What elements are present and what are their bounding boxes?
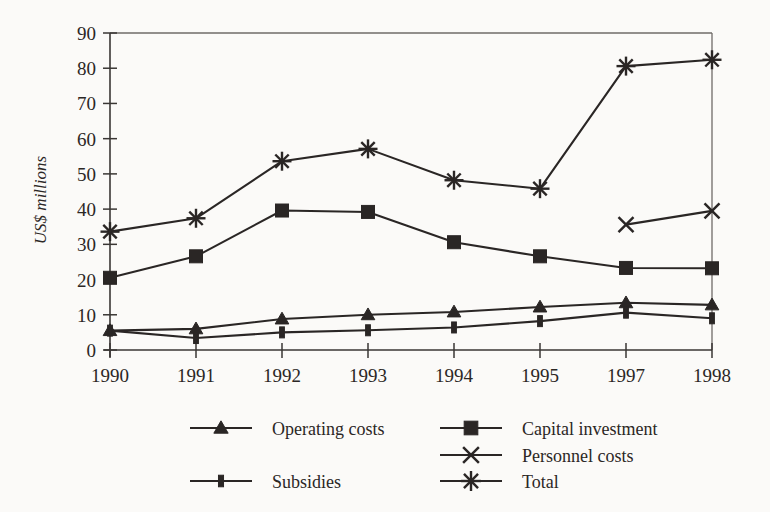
y-tick-label-80: 80 <box>77 58 96 79</box>
point-total-1991 <box>187 209 206 228</box>
legend-label-personnel-costs: Personnel costs <box>522 446 634 466</box>
x-tick-label-1990: 1990 <box>91 365 129 386</box>
point-capital-investment-1991 <box>190 250 203 263</box>
y-tick-label-40: 40 <box>77 199 96 220</box>
point-subsidies-1994 <box>452 322 457 333</box>
y-axis: 0102030405060708090 <box>77 23 117 361</box>
series-line-total <box>110 60 712 232</box>
point-total-1993 <box>359 139 378 158</box>
x-tick-label-1992: 1992 <box>263 365 301 386</box>
y-tick-label-60: 60 <box>77 129 96 150</box>
x-tick-label-1998: 1998 <box>693 365 731 386</box>
x-tick-label-1997: 1997 <box>607 365 645 386</box>
series-line-personnel-costs <box>626 211 712 225</box>
x-tick-label-1993: 1993 <box>349 365 387 386</box>
legend-label-total: Total <box>522 472 559 492</box>
point-total-1995 <box>531 179 550 198</box>
series-personnel-costs <box>619 203 720 232</box>
plot-frame <box>104 33 712 357</box>
line-chart-svg: 0102030405060708090 US$ millions 1990199… <box>0 0 770 512</box>
triangle-marker <box>214 421 228 433</box>
x-tick-label-1995: 1995 <box>521 365 559 386</box>
legend-label-operating-costs: Operating costs <box>272 419 384 439</box>
vbar-marker <box>218 475 223 487</box>
point-subsidies-1991 <box>194 333 199 344</box>
y-tick-label-50: 50 <box>77 164 96 185</box>
point-operating-costs-1997 <box>619 296 633 308</box>
point-subsidies-1990 <box>108 325 113 336</box>
series-layer <box>101 50 722 343</box>
point-capital-investment-1992 <box>276 204 289 217</box>
point-total-1990 <box>101 222 120 241</box>
asterisk-marker <box>461 471 481 491</box>
point-subsidies-1993 <box>366 325 371 336</box>
legend-item-capital-investment[interactable]: Capital investment <box>440 419 657 439</box>
x-tick-label-1994: 1994 <box>435 365 474 386</box>
chart-figure: 0102030405060708090 US$ millions 1990199… <box>0 0 770 512</box>
point-total-1997 <box>617 57 636 76</box>
y-tick-label-30: 30 <box>77 234 96 255</box>
x-tick-label-1991: 1991 <box>177 365 215 386</box>
y-tick-label-70: 70 <box>77 93 96 114</box>
point-total-1998 <box>703 50 722 69</box>
legend-label-subsidies: Subsidies <box>272 472 341 492</box>
point-capital-investment-1990 <box>104 271 117 284</box>
point-subsidies-1998 <box>710 313 715 324</box>
legend-item-subsidies[interactable]: Subsidies <box>190 472 341 492</box>
point-capital-investment-1995 <box>534 250 547 263</box>
legend-item-personnel-costs[interactable]: Personnel costs <box>440 446 634 466</box>
point-subsidies-1995 <box>538 316 543 327</box>
y-tick-label-0: 0 <box>87 340 97 361</box>
legend-item-total[interactable]: Total <box>440 471 559 492</box>
y-tick-label-20: 20 <box>77 270 96 291</box>
point-capital-investment-1994 <box>448 236 461 249</box>
y-tick-label-10: 10 <box>77 305 96 326</box>
y-axis-title: US$ millions <box>31 155 50 244</box>
point-total-1994 <box>445 171 464 190</box>
point-subsidies-1997 <box>624 307 629 318</box>
point-capital-investment-1998 <box>706 262 719 275</box>
square-marker <box>464 421 478 435</box>
point-capital-investment-1997 <box>620 261 633 274</box>
point-capital-investment-1993 <box>362 205 375 218</box>
chart-legend: Operating costsSubsidiesCapital investme… <box>190 419 657 492</box>
legend-label-capital-investment: Capital investment <box>522 419 657 439</box>
legend-item-operating-costs[interactable]: Operating costs <box>190 419 384 439</box>
series-total <box>101 50 722 241</box>
y-tick-label-90: 90 <box>77 23 96 44</box>
point-subsidies-1992 <box>280 327 285 338</box>
point-total-1992 <box>273 152 292 171</box>
